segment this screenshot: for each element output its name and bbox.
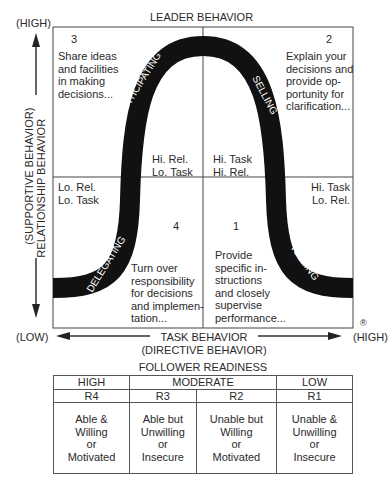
level-high: HIGH [54, 376, 130, 390]
desc-r2: Unable butWillingorMotivated [196, 403, 276, 474]
code-r2: R2 [196, 389, 276, 403]
q1-corner: Hi. Task Lo. Rel. [311, 181, 350, 206]
code-r4: R4 [54, 389, 130, 403]
x-axis-label: TASK BEHAVIOR [150, 331, 258, 344]
q4-description: Turn over responsibility for decisions a… [131, 262, 204, 325]
q1-description: Provide specific in- structions and clos… [215, 249, 286, 324]
follower-readiness-title: FOLLOWER READINESS [53, 361, 353, 374]
x-high-label: (HIGH) [353, 331, 388, 344]
y-high-label: (HIGH) [16, 17, 51, 30]
desc-r1: Unable &UnwillingorInsecure [277, 403, 353, 474]
q2-corner: Hi. Task Hi. Rel. [213, 153, 252, 178]
arrow-down-icon [32, 304, 40, 318]
y-axis-label-1: (SUPPORTIVE BEHAVIOR) [23, 91, 36, 261]
q3-number: 3 [71, 33, 77, 46]
y-low-label: (LOW) [16, 331, 48, 344]
desc-r4: Able &WillingorMotivated [54, 403, 130, 474]
x-axis-sublabel: (DIRECTIVE BEHAVIOR) [130, 344, 278, 357]
q3-description: Share ideas and facilities in making dec… [58, 50, 119, 100]
level-moderate: MODERATE [130, 376, 277, 390]
q4-number: 4 [173, 220, 179, 233]
level-low: LOW [277, 376, 353, 390]
arrow-left-icon [56, 332, 70, 340]
follower-readiness-table: HIGH MODERATE LOW R4 R3 R2 R1 Able &Will… [53, 375, 353, 474]
y-axis-label-2: RELATIONSHIP BEHAVIOR [35, 103, 48, 273]
title: LEADER BEHAVIOR [150, 11, 253, 24]
arrow-up-icon [32, 33, 40, 47]
registered-mark: ® [360, 317, 367, 330]
arrow-right-icon [328, 332, 342, 340]
code-r1: R1 [277, 389, 353, 403]
q3-corner: Hi. Rel. Lo. Task [152, 153, 193, 178]
desc-r3: Able butUnwillingorInsecure [130, 403, 197, 474]
q2-description: Explain your decisions and provide op- p… [286, 50, 353, 113]
code-r3: R3 [130, 389, 197, 403]
q4-corner: Lo. Rel. Lo. Task [58, 181, 99, 206]
q2-number: 2 [326, 33, 332, 46]
q1-number: 1 [233, 220, 239, 233]
